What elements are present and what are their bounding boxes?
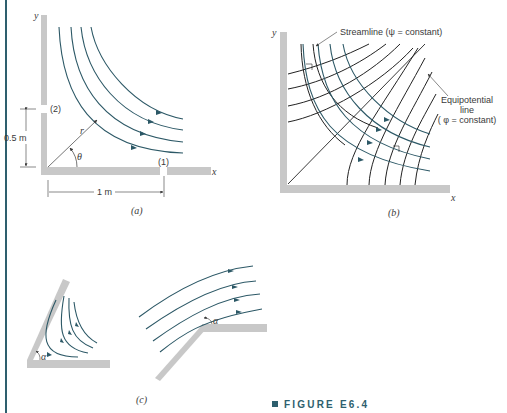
width-dimension-label: 1 m <box>97 187 112 197</box>
wedge-wall-horizontal <box>27 360 110 368</box>
height-dimension-label: 0.5 m <box>4 133 27 143</box>
figure-caption: FIGURE E6.4 <box>272 399 369 410</box>
wall-vertical-upper <box>41 15 47 105</box>
panel-b: Streamline (ψ = constant) Equipotential … <box>271 27 496 219</box>
wall-vertical-lower <box>41 113 47 175</box>
panel-c: α α (c) <box>27 266 267 406</box>
radius-label: r <box>80 125 84 136</box>
theta-arc <box>70 148 77 167</box>
caption-square-icon <box>272 401 278 407</box>
streamline-annotation: Streamline (ψ = constant) <box>340 27 442 37</box>
equipotential-annotation-line2: line <box>460 105 474 115</box>
wall-horizontal-right <box>167 167 211 175</box>
opening-1-label: (1) <box>158 157 169 167</box>
streamlines-a <box>59 27 183 153</box>
theta-label: θ <box>77 151 82 162</box>
alpha-label-right: α <box>213 315 219 326</box>
x-axis-label: x <box>211 166 217 177</box>
corner-wall-diagonal <box>155 325 206 381</box>
equipotential-annotation-line3: ( φ = constant) <box>438 115 497 125</box>
panel-a-label: (a) <box>131 205 143 217</box>
panel-a: r θ 0.5 m 1 m (2) (1) y x (a) <box>4 10 217 217</box>
panel-c-label: (c) <box>136 394 148 406</box>
figure-canvas: r θ 0.5 m 1 m (2) (1) y x (a) <box>0 0 507 413</box>
equipotential-annotation-line1: Equipotential <box>441 95 493 105</box>
y-axis-label-b: y <box>271 27 277 38</box>
corner-wall-horizontal <box>202 324 267 332</box>
wall-horizontal-b <box>280 185 450 193</box>
y-axis-label: y <box>33 10 39 21</box>
panel-b-label: (b) <box>388 207 400 219</box>
figure-caption-text: FIGURE E6.4 <box>284 399 369 410</box>
alpha-label-left: α <box>41 351 47 362</box>
streamlines-b <box>303 44 430 171</box>
radius-vector <box>48 120 97 167</box>
equipotential-lines <box>288 44 438 185</box>
wall-horizontal-left <box>41 167 160 175</box>
opening-2-label: (2) <box>50 104 61 114</box>
x-axis-label-b: x <box>450 192 456 203</box>
wall-vertical-b <box>280 32 287 193</box>
